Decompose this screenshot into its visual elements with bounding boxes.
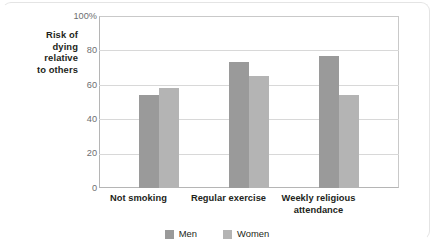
legend-label-men: Men	[179, 229, 197, 239]
y-axis-title-line: to others	[0, 64, 78, 76]
x-axis-tick-label-line: Weekly religious	[257, 193, 380, 205]
legend-swatch-icon-men	[165, 230, 174, 239]
chart-figure: Risk of dying relative to others 100% 80…	[0, 0, 434, 251]
legend-swatch-icon-women	[223, 230, 232, 239]
bar-women-not-smoking	[159, 88, 179, 188]
bar-group-not-smoking	[118, 16, 200, 188]
legend-entry-women: Women	[223, 229, 269, 239]
bar-women-regular-exercise	[249, 76, 269, 188]
y-axis-tick-label: 40	[57, 114, 97, 124]
bar-group-regular-exercise	[208, 16, 290, 188]
y-axis-tick-label: 20	[57, 148, 97, 158]
y-axis-tick-label: 60	[57, 80, 97, 90]
plot-area	[99, 16, 399, 188]
y-axis-tick-label: 100%	[57, 11, 97, 21]
bar-group-weekly-religious-attendance	[298, 16, 380, 188]
x-axis-tick-label-line: attendance	[257, 205, 380, 217]
legend-entry-men: Men	[165, 229, 197, 239]
x-axis-tick-label-weekly-religious-attendance: Weekly religious attendance	[257, 193, 380, 216]
legend-label-women: Women	[237, 229, 269, 239]
y-axis-title-line: Risk of	[0, 29, 78, 41]
chart-legend: Men Women	[0, 229, 434, 239]
bar-women-weekly-religious-attendance	[339, 95, 359, 188]
y-axis-tick-label: 0	[57, 183, 97, 193]
bar-men-regular-exercise	[229, 62, 249, 188]
y-axis-tick-label: 80	[57, 45, 97, 55]
bar-men-not-smoking	[139, 95, 159, 188]
bar-men-weekly-religious-attendance	[319, 56, 339, 188]
